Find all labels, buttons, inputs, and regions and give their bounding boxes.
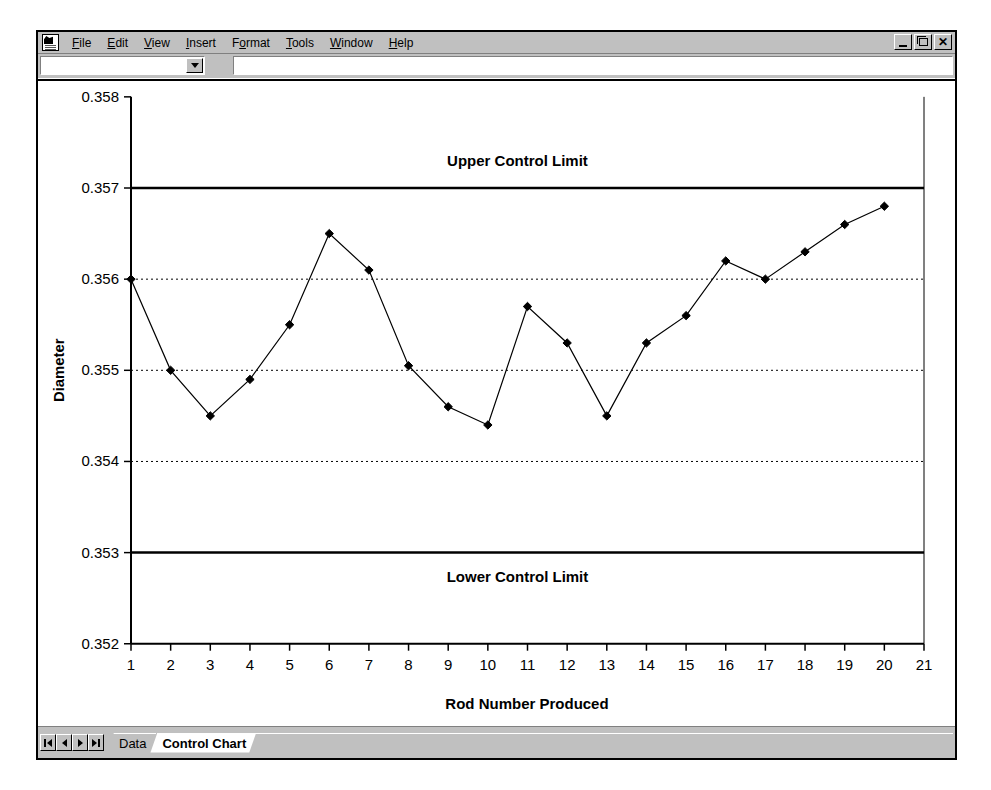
menu-item-help[interactable]: Help bbox=[381, 34, 422, 52]
control-chart-plot: 0.3520.3530.3540.3550.3560.3570.358 1234… bbox=[38, 81, 955, 726]
sheet-tab-bar: Data Control Chart bbox=[38, 726, 955, 758]
menu-item-file[interactable]: File bbox=[64, 34, 99, 52]
chart-canvas: 0.3520.3530.3540.3550.3560.3570.358 1234… bbox=[38, 79, 955, 726]
menu-item-tools[interactable]: Tools bbox=[278, 34, 322, 52]
x-tick-label: 11 bbox=[520, 656, 536, 673]
close-icon: ✕ bbox=[938, 36, 948, 48]
last-sheet-button[interactable] bbox=[88, 734, 104, 751]
formula-input[interactable] bbox=[233, 56, 953, 75]
menu-item-insert[interactable]: Insert bbox=[178, 34, 224, 52]
y-tick-label: 0.352 bbox=[81, 635, 119, 652]
previous-sheet-icon bbox=[62, 739, 67, 747]
minimize-icon bbox=[899, 45, 907, 47]
chevron-down-icon bbox=[191, 63, 199, 68]
x-tick-label: 5 bbox=[285, 656, 293, 673]
x-tick-label: 8 bbox=[404, 656, 412, 673]
sheet-navigation-buttons bbox=[40, 734, 104, 751]
next-sheet-icon bbox=[78, 739, 83, 747]
sheet-tabs: Data Control Chart bbox=[107, 733, 250, 753]
menu-item-format[interactable]: Format bbox=[224, 34, 278, 52]
menu-item-edit[interactable]: Edit bbox=[99, 34, 136, 52]
x-tick-label: 6 bbox=[325, 656, 333, 673]
minimize-button[interactable] bbox=[894, 34, 912, 50]
formula-bar-spacer bbox=[205, 56, 233, 75]
sheet-tab-filler bbox=[250, 733, 953, 753]
restore-button[interactable] bbox=[914, 34, 932, 50]
menu-item-window[interactable]: Window bbox=[322, 34, 381, 52]
y-tick-label: 0.353 bbox=[81, 544, 119, 561]
y-axis-title: Diameter bbox=[50, 338, 67, 402]
sheet-tab-data[interactable]: Data bbox=[107, 733, 156, 753]
x-tick-label: 16 bbox=[717, 656, 734, 673]
y-tick-label: 0.354 bbox=[81, 452, 119, 469]
x-tick-label: 2 bbox=[166, 656, 174, 673]
y-tick-label: 0.358 bbox=[81, 88, 119, 105]
window-controls: ✕ bbox=[894, 34, 952, 50]
x-tick-label: 4 bbox=[246, 656, 254, 673]
sheet-tab-label: Control Chart bbox=[162, 736, 246, 751]
x-tick-label: 14 bbox=[638, 656, 655, 673]
x-tick-label: 3 bbox=[206, 656, 214, 673]
x-tick-label: 18 bbox=[797, 656, 814, 673]
upper-control-limit-label: Upper Control Limit bbox=[447, 152, 588, 169]
x-tick-label: 1 bbox=[127, 656, 135, 673]
y-tick-label: 0.357 bbox=[81, 179, 119, 196]
screen: File Edit View Insert Format Tools Windo… bbox=[0, 0, 991, 790]
lower-control-limit-label: Lower Control Limit bbox=[447, 568, 589, 585]
chart-background bbox=[38, 81, 955, 726]
first-sheet-icon bbox=[44, 739, 52, 747]
y-tick-label: 0.356 bbox=[81, 270, 119, 287]
x-tick-label: 15 bbox=[678, 656, 695, 673]
last-sheet-icon bbox=[92, 739, 100, 747]
x-tick-label: 12 bbox=[559, 656, 576, 673]
x-tick-label: 7 bbox=[365, 656, 373, 673]
x-tick-label: 13 bbox=[598, 656, 615, 673]
close-button[interactable]: ✕ bbox=[934, 34, 952, 50]
x-tick-label: 20 bbox=[876, 656, 893, 673]
next-sheet-button[interactable] bbox=[72, 734, 88, 751]
x-axis-title: Rod Number Produced bbox=[445, 695, 608, 712]
spreadsheet-application-window: File Edit View Insert Format Tools Windo… bbox=[36, 30, 957, 760]
menu-bar: File Edit View Insert Format Tools Windo… bbox=[38, 32, 955, 54]
x-tick-label: 21 bbox=[916, 656, 933, 673]
x-tick-label: 17 bbox=[757, 656, 774, 673]
sheet-tab-label: Data bbox=[119, 736, 146, 751]
menu-item-view[interactable]: View bbox=[136, 34, 178, 52]
previous-sheet-button[interactable] bbox=[56, 734, 72, 751]
first-sheet-button[interactable] bbox=[40, 734, 56, 751]
x-tick-label: 19 bbox=[836, 656, 853, 673]
name-box[interactable] bbox=[40, 56, 205, 75]
formula-bar bbox=[38, 54, 955, 78]
spreadsheet-document-icon[interactable] bbox=[42, 34, 59, 51]
x-tick-label: 10 bbox=[480, 656, 497, 673]
sheet-tab-control-chart[interactable]: Control Chart bbox=[150, 733, 256, 753]
restore-icon bbox=[919, 38, 928, 46]
x-tick-label: 9 bbox=[444, 656, 452, 673]
name-box-dropdown-button[interactable] bbox=[186, 58, 203, 73]
y-tick-label: 0.355 bbox=[81, 361, 119, 378]
